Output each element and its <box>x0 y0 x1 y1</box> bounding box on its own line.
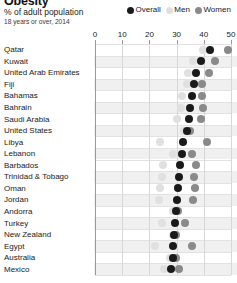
chart-legend: OverallMenWomen <box>127 6 231 14</box>
data-point-women <box>192 161 200 169</box>
data-point-women <box>191 184 199 192</box>
x-axis-tick-label: 30 <box>172 30 181 39</box>
data-point-women <box>198 80 206 88</box>
row-separator <box>95 252 231 253</box>
x-axis-tick-label: 20 <box>145 30 154 39</box>
row-separator <box>95 217 231 218</box>
data-point-women <box>203 138 211 146</box>
legend-label: Women <box>203 6 230 14</box>
legend-label: Overall <box>136 6 161 14</box>
category-label-row-17: Egypt <box>4 242 24 251</box>
data-point-men <box>184 69 192 77</box>
obesity-dot-chart: Obesity % of adult population 18 years o… <box>0 0 237 283</box>
category-label-row-10: Barbados <box>4 161 38 170</box>
data-point-women <box>188 150 196 158</box>
category-label-row-7: United States <box>4 126 52 135</box>
data-point-men <box>160 265 168 273</box>
data-point-men <box>151 242 159 250</box>
data-point-women <box>205 69 213 77</box>
row-separator <box>95 206 231 207</box>
data-point-overall <box>175 173 183 181</box>
category-label-row-9: Lebanon <box>4 149 35 158</box>
category-label-row-19: Mexico <box>4 265 29 274</box>
gridline-10 <box>122 44 123 275</box>
row-separator <box>95 79 231 80</box>
gridline-20 <box>149 44 150 275</box>
row-band <box>94 240 237 252</box>
category-label-row-13: Jordan <box>4 195 28 204</box>
data-point-overall <box>171 219 179 227</box>
category-label-row-8: Libya <box>4 138 23 147</box>
data-point-overall <box>167 265 175 273</box>
chart-title: Obesity <box>4 0 48 7</box>
data-point-women <box>198 92 206 100</box>
row-separator <box>95 171 231 172</box>
row-separator <box>95 113 231 114</box>
data-point-overall <box>185 115 193 123</box>
gridline-40 <box>204 44 205 275</box>
category-label-row-4: Bahamas <box>4 91 38 100</box>
category-label-row-5: Bahrain <box>4 103 32 112</box>
data-point-overall <box>176 161 184 169</box>
x-axis-tick-label: 40 <box>199 30 208 39</box>
row-separator <box>95 90 231 91</box>
gridline-30 <box>177 44 178 275</box>
category-label-row-16: New Zealand <box>4 230 51 239</box>
row-separator <box>95 240 231 241</box>
data-point-overall <box>183 127 191 135</box>
data-point-men <box>189 57 197 65</box>
row-separator <box>95 229 231 230</box>
data-point-overall <box>174 184 182 192</box>
data-point-men <box>169 150 177 158</box>
x-axis-tick-label: 10 <box>118 30 127 39</box>
category-label-row-15: Turkey <box>4 219 28 228</box>
data-point-men <box>156 184 164 192</box>
data-point-overall <box>192 69 200 77</box>
x-axis-tick-label: 50 <box>227 30 236 39</box>
data-point-overall <box>172 207 180 215</box>
category-label-row-12: Oman <box>4 184 26 193</box>
data-point-overall <box>179 138 187 146</box>
gridline-50 <box>231 44 232 275</box>
legend-dot-men-icon <box>166 7 173 14</box>
row-separator <box>95 183 231 184</box>
row-separator <box>95 275 231 276</box>
legend-dot-overall-icon <box>127 7 134 14</box>
row-separator <box>95 102 231 103</box>
legend-item-men[interactable]: Men <box>166 6 190 14</box>
tickmark-40 <box>204 40 205 44</box>
plot-area: 01020304050 <box>95 44 231 275</box>
tickmark-50 <box>231 40 232 44</box>
data-point-overall <box>169 254 177 262</box>
category-label-row-3: Fiji <box>4 80 14 89</box>
row-separator <box>95 136 231 137</box>
row-band <box>94 79 237 91</box>
tickmark-0 <box>95 40 96 44</box>
data-point-overall <box>197 57 205 65</box>
legend-dot-women-icon <box>195 7 202 14</box>
category-label-row-11: Trinidad & Tobago <box>4 172 69 181</box>
chart-subtitle-secondary: 18 years or over, 2014 <box>4 18 70 26</box>
tickmark-20 <box>149 40 150 44</box>
data-point-women <box>224 46 232 54</box>
legend-item-women[interactable]: Women <box>195 6 231 14</box>
chart-subtitle: % of adult population <box>4 7 83 17</box>
data-point-overall <box>190 80 198 88</box>
data-point-women <box>199 104 207 112</box>
data-point-women <box>197 115 205 123</box>
data-point-men <box>156 138 164 146</box>
row-band <box>94 102 237 114</box>
data-point-men <box>173 115 181 123</box>
data-point-women <box>189 196 197 204</box>
tickmark-10 <box>122 40 123 44</box>
tickmark-30 <box>177 40 178 44</box>
gridline-0 <box>95 44 96 275</box>
category-label-row-0: Qatar <box>4 45 24 54</box>
row-band <box>94 125 237 137</box>
legend-item-overall[interactable]: Overall <box>127 6 161 14</box>
data-point-overall <box>206 46 214 54</box>
data-point-men <box>158 173 166 181</box>
data-point-overall <box>178 150 186 158</box>
row-band <box>94 194 237 206</box>
data-point-overall <box>170 231 178 239</box>
